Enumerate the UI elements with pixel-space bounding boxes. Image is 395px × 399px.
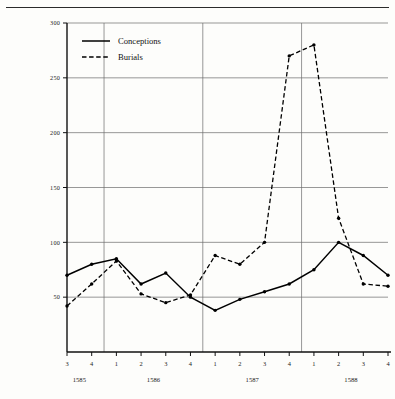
x-axis-tick-label: 2: [238, 360, 241, 367]
x-axis-tick-label: 3: [362, 360, 365, 367]
data-point: [164, 301, 167, 304]
data-point: [312, 43, 315, 46]
data-point: [238, 298, 241, 301]
x-axis-tick-label: 3: [65, 360, 68, 367]
x-axis-year-label: 1586: [147, 376, 161, 383]
x-axis-tick-label: 2: [139, 360, 142, 367]
gridlines-group: [67, 23, 388, 352]
data-point: [312, 268, 315, 271]
x-axis-year-label: 1585: [73, 376, 87, 383]
data-point: [362, 254, 365, 257]
data-point: [288, 54, 291, 57]
data-point: [189, 293, 192, 296]
data-point: [386, 274, 389, 277]
x-axis-tick-label: 1: [312, 360, 315, 367]
x-axis-tick-label: 3: [263, 360, 266, 367]
y-axis-tick-label: 300: [50, 19, 60, 26]
data-point: [213, 309, 216, 312]
y-axis-labels-group: 50100150200250300: [50, 19, 60, 300]
x-axis-labels-group: 34123412341234: [65, 360, 390, 367]
data-point: [337, 241, 340, 244]
y-axis-tick-label: 100: [50, 239, 60, 246]
line-chart-svg: 50100150200250300 34123412341234 1585158…: [0, 0, 395, 399]
data-point: [65, 304, 68, 307]
data-point: [65, 274, 68, 277]
data-series-group: [65, 43, 389, 312]
data-point: [288, 282, 291, 285]
series-line-conceptions: [67, 242, 388, 310]
data-point: [139, 292, 142, 295]
x-axis-tick-label: 1: [115, 360, 118, 367]
data-point: [213, 254, 216, 257]
x-axis-tick-label: 4: [90, 360, 94, 367]
x-axis-tick-label: 3: [164, 360, 167, 367]
legend-group: ConceptionsBurials: [82, 36, 162, 62]
data-point: [90, 263, 93, 266]
year-labels-group: 1585158615871588: [73, 376, 359, 383]
y-axis-tick-label: 200: [50, 129, 60, 136]
data-point: [164, 271, 167, 274]
x-axis-tick-label: 2: [337, 360, 340, 367]
data-point: [362, 282, 365, 285]
x-axis-tick-label: 4: [288, 360, 292, 367]
data-point: [386, 285, 389, 288]
data-point: [90, 282, 93, 285]
x-axis-year-label: 1587: [246, 376, 260, 383]
chart-figure: 50100150200250300 34123412341234 1585158…: [0, 0, 395, 399]
y-axis-tick-label: 50: [53, 293, 60, 300]
data-point: [337, 217, 340, 220]
x-axis-tick-label: 4: [189, 360, 193, 367]
y-axis-tick-label: 250: [50, 74, 60, 81]
x-axis-tick-label: 1: [214, 360, 217, 367]
data-point: [238, 263, 241, 266]
series-line-burials: [67, 45, 388, 306]
y-axis-tick-label: 150: [50, 184, 60, 191]
data-point: [115, 259, 118, 262]
x-axis-year-label: 1588: [344, 376, 358, 383]
legend-label-burials: Burials: [118, 52, 143, 62]
x-axis-tick-label: 4: [386, 360, 390, 367]
data-point: [263, 241, 266, 244]
legend-label-conceptions: Conceptions: [118, 36, 162, 46]
data-point: [139, 282, 142, 285]
plot-container: 50100150200250300 34123412341234 1585158…: [0, 0, 395, 399]
data-point: [263, 290, 266, 293]
